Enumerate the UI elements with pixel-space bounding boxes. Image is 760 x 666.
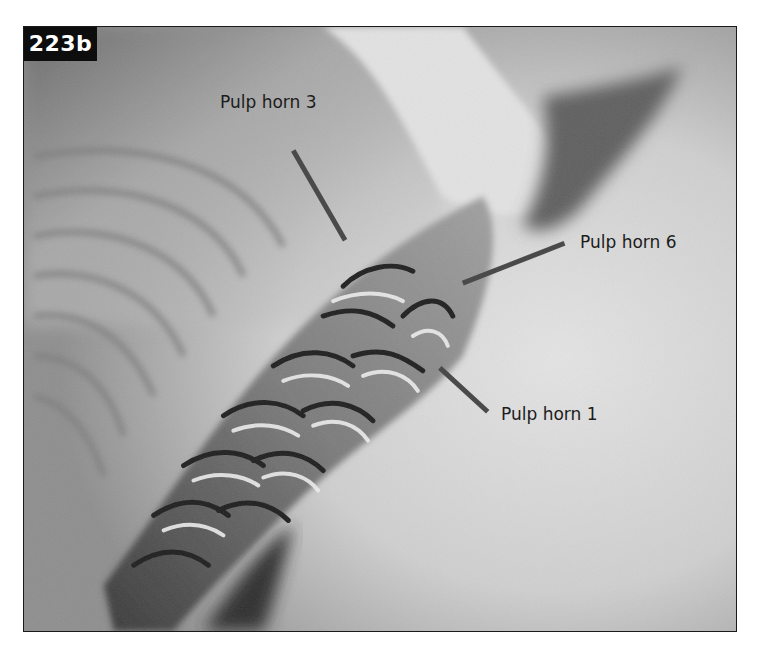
clinical-photo: [24, 27, 736, 631]
figure-photo-frame: 223b Pulp horn 3 Pulp horn 6 Pulp horn 1: [23, 26, 737, 632]
figure-number-badge: 223b: [24, 27, 97, 61]
cropped-text-line: [0, 0, 760, 6]
label-pulp-horn-3: Pulp horn 3: [220, 92, 317, 112]
label-pulp-horn-1: Pulp horn 1: [501, 404, 598, 424]
label-pulp-horn-6: Pulp horn 6: [580, 232, 677, 252]
